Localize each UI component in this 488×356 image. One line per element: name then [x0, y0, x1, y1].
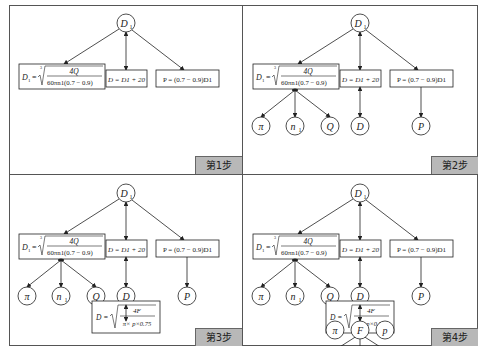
svg-text:Q: Q [92, 291, 100, 302]
svg-text:Q: Q [326, 291, 334, 302]
svg-text:3: 3 [274, 235, 276, 240]
svg-text:Q: Q [326, 121, 334, 132]
svg-text:4Q: 4Q [69, 67, 79, 76]
svg-text:1: 1 [364, 194, 367, 200]
svg-text:60πn1(0.7 − 0.9): 60πn1(0.7 − 0.9) [281, 79, 327, 87]
node-d: D [351, 117, 369, 135]
diagram-step-3: D1=34Q60πn1(0.7 − 0.9)D = D1 + 20P = (0.… [9, 175, 243, 346]
node-n1: n1 [286, 117, 304, 135]
svg-text:1: 1 [130, 24, 133, 30]
svg-text:n: n [291, 291, 296, 302]
svg-text:p: p [382, 325, 388, 336]
node-n1: n1 [52, 287, 70, 305]
svg-text:D: D [119, 188, 128, 199]
node-f: F [351, 321, 369, 339]
svg-text:=: = [32, 243, 37, 252]
svg-text:D = D1 + 20: D = D1 + 20 [341, 76, 380, 84]
svg-text:n: n [57, 291, 62, 302]
panel-step-4: D1=34Q60πn1(0.7 − 0.9)D = D1 + 20P = (0.… [243, 175, 478, 346]
svg-text:F: F [356, 325, 364, 336]
svg-text:D: D [353, 188, 362, 199]
svg-text:3: 3 [40, 65, 42, 70]
svg-text:60πn1(0.7 − 0.9): 60πn1(0.7 − 0.9) [47, 79, 93, 87]
svg-text:n: n [291, 121, 296, 132]
diagram-step-2: D1=34Q60πn1(0.7 − 0.9)D = D1 + 20P = (0.… [243, 5, 478, 175]
diagram-step-1: D1=34Q60πn1(0.7 − 0.9)D = D1 + 20P = (0.… [9, 5, 243, 175]
panel-step-2: D1=34Q60πn1(0.7 − 0.9)D = D1 + 20P = (0.… [243, 5, 478, 175]
svg-text:P: P [417, 291, 424, 302]
node-q: Q [321, 117, 339, 135]
svg-text:D = D1 + 20: D = D1 + 20 [107, 246, 146, 254]
svg-text:=: = [32, 73, 37, 82]
diagram-step-4: D1=34Q60πn1(0.7 − 0.9)D = D1 + 20P = (0.… [243, 175, 478, 346]
svg-text:π× p×0.75: π× p×0.75 [123, 320, 152, 327]
svg-text:P: P [417, 121, 424, 132]
svg-text:D: D [255, 243, 262, 252]
svg-text:D: D [21, 73, 28, 82]
svg-text:D = D1 + 20: D = D1 + 20 [107, 76, 146, 84]
svg-text:1: 1 [299, 127, 302, 133]
node-p: P [412, 287, 430, 305]
svg-text:4F: 4F [367, 307, 376, 315]
svg-text:D =: D = [95, 313, 108, 322]
svg-text:D: D [21, 243, 28, 252]
svg-text:D: D [255, 73, 262, 82]
step-label: 第1步 [195, 156, 242, 174]
node-density: p [376, 321, 394, 339]
svg-text:1: 1 [364, 24, 367, 30]
step-label: 第2步 [431, 156, 478, 174]
node-pi: π [252, 117, 270, 135]
svg-text:D = D1 + 20: D = D1 + 20 [341, 246, 380, 254]
node-pi-2: π [326, 321, 344, 339]
node-pi: π [252, 287, 270, 305]
node-p: P [178, 287, 196, 305]
step-label: 第4步 [431, 328, 478, 346]
svg-text:P = (0.7 − 0.9)D1: P = (0.7 − 0.9)D1 [397, 246, 447, 254]
svg-text:1: 1 [65, 297, 68, 303]
svg-text:D: D [353, 18, 362, 29]
svg-text:60πn1(0.7 − 0.9): 60πn1(0.7 − 0.9) [47, 249, 93, 257]
svg-text:=: = [266, 73, 271, 82]
svg-text:D: D [121, 291, 130, 302]
svg-text:1: 1 [130, 194, 133, 200]
svg-text:4Q: 4Q [69, 237, 79, 246]
svg-text:3: 3 [40, 235, 42, 240]
node-d1: D1 [117, 184, 135, 202]
svg-text:4Q: 4Q [303, 67, 313, 76]
node-d1: D1 [117, 14, 135, 32]
node-d1: D1 [351, 184, 369, 202]
svg-text:P = (0.7 − 0.9)D1: P = (0.7 − 0.9)D1 [397, 76, 447, 84]
svg-text:D: D [119, 18, 128, 29]
svg-text:P = (0.7 − 0.9)D1: P = (0.7 − 0.9)D1 [163, 246, 213, 254]
node-p: P [412, 117, 430, 135]
panel-step-3: D1=34Q60πn1(0.7 − 0.9)D = D1 + 20P = (0.… [9, 175, 243, 346]
svg-text:3: 3 [274, 65, 276, 70]
svg-text:D: D [355, 291, 364, 302]
svg-text:D: D [355, 121, 364, 132]
svg-text:1: 1 [299, 297, 302, 303]
svg-text:P = (0.7 − 0.9)D1: P = (0.7 − 0.9)D1 [163, 76, 213, 84]
svg-text:=: = [266, 243, 271, 252]
svg-text:60πn1(0.7 − 0.9): 60πn1(0.7 − 0.9) [281, 249, 327, 257]
node-pi: π [18, 287, 36, 305]
node-n1: n1 [286, 287, 304, 305]
svg-text:P: P [183, 291, 190, 302]
svg-text:4F: 4F [133, 307, 142, 315]
svg-text:4Q: 4Q [303, 237, 313, 246]
node-d1: D1 [351, 14, 369, 32]
step-label: 第3步 [195, 328, 242, 346]
panel-step-1: D1=34Q60πn1(0.7 − 0.9)D = D1 + 20P = (0.… [9, 5, 243, 175]
